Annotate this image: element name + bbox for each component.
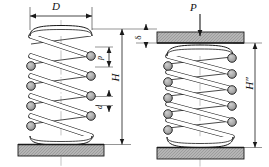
spring-diagram-figure: D P H H″ p d δ [0,0,269,167]
left-spring-wire-sections-right [87,52,96,121]
diagram-canvas [0,0,269,167]
label-deflection: δ [134,35,143,39]
dimension-H-compressed [233,43,262,148]
left-spring-top-end-turn [30,26,92,37]
label-pitch: p [96,56,104,60]
right-spring-top-end-turn [167,45,233,56]
loaded-spring-group [157,32,244,167]
label-free-height: H [110,74,121,82]
left-base-plate [18,145,104,157]
free-spring-group [18,20,104,166]
right-spring-bottom-end-turn [167,137,233,148]
label-applied-load: P [190,2,197,13]
label-coil-diameter: D [52,1,60,12]
right-base-plate [157,148,244,160]
label-wire-diameter: d [96,105,104,109]
right-spring-wire-sections-right [228,54,237,127]
dimension-H [92,29,131,145]
left-spring-bottom-end-turn [30,136,92,145]
label-compressed-height: H″ [244,77,255,90]
